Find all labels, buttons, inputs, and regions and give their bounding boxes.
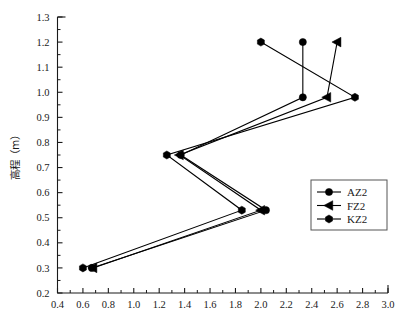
x-axis-tick-labels: 0.40.60.81.01.21.41.61.82.02.22.42.62.83…	[51, 299, 395, 310]
data-series	[79, 37, 358, 272]
x-tick-label: 1.8	[229, 299, 242, 310]
data-point-marker-hexagon	[257, 38, 264, 46]
y-tick-label: 0.3	[36, 263, 49, 274]
x-tick-label: 2.2	[280, 299, 293, 310]
y-tick-label: 0.5	[36, 212, 49, 223]
x-tick-label: 2.6	[331, 299, 344, 310]
series-AZ2	[88, 38, 306, 271]
x-tick-label: 0.8	[102, 299, 115, 310]
y-tick-label: 1.2	[36, 37, 49, 48]
y-axis-label-text: 高程（m）	[9, 130, 21, 180]
series-line-KZ2	[83, 42, 355, 268]
data-point-marker-hexagon	[79, 264, 86, 272]
y-axis-tick-labels: 0.20.30.40.50.60.70.80.91.01.11.21.3	[36, 12, 50, 299]
data-point-marker-circle	[299, 94, 306, 101]
y-tick-label: 0.2	[36, 288, 49, 299]
y-tick-label: 0.8	[36, 137, 49, 148]
legend-item-label: AZ2	[347, 186, 367, 198]
x-tick-label: 1.6	[203, 299, 216, 310]
y-tick-label: 1.3	[36, 12, 49, 23]
series-KZ2	[79, 38, 358, 272]
axes	[58, 17, 389, 293]
x-tick-label: 2.4	[305, 299, 319, 310]
x-tick-label: 1.4	[178, 299, 192, 310]
data-point-marker-hexagon	[163, 151, 170, 159]
x-tick-label: 2.8	[356, 299, 369, 310]
x-tick-label: 1.2	[153, 299, 166, 310]
series-line-FZ2	[93, 42, 337, 268]
chart-plot-area: 0.40.60.81.01.21.41.61.82.02.22.42.62.83…	[0, 0, 405, 331]
y-tick-label: 0.9	[36, 112, 49, 123]
legend-item-label: KZ2	[347, 213, 367, 225]
y-tick-label: 1.1	[36, 62, 49, 73]
data-point-marker-hexagon	[326, 215, 333, 223]
y-axis-title: 高程（m）	[9, 130, 21, 180]
x-tick-label: 0.4	[51, 299, 65, 310]
data-point-marker-hexagon	[351, 93, 358, 101]
x-tick-label: 3.0	[381, 299, 394, 310]
data-point-marker-circle	[299, 38, 306, 45]
x-tick-label: 0.6	[76, 299, 89, 310]
y-tick-label: 0.7	[36, 162, 49, 173]
data-point-marker-hexagon	[238, 206, 245, 214]
legend-item-label: FZ2	[347, 200, 365, 212]
data-point-marker-left-triangle	[322, 92, 331, 102]
y-tick-label: 0.4	[36, 237, 50, 248]
chart-legend[interactable]: AZ2FZ2KZ2	[311, 180, 387, 230]
data-point-marker-circle	[325, 188, 332, 195]
x-tick-label: 1.0	[127, 299, 140, 310]
y-tick-label: 0.6	[36, 187, 49, 198]
y-tick-label: 1.0	[36, 87, 49, 98]
x-tick-label: 2.0	[254, 299, 267, 310]
series-line-AZ2	[92, 42, 303, 268]
axis-ticks	[58, 17, 389, 293]
chart-container: 0.40.60.81.01.21.41.61.82.02.22.42.62.83…	[0, 0, 405, 331]
